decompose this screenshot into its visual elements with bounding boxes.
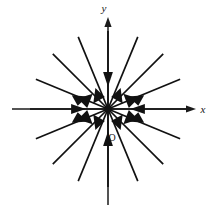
vector-field-diagram: y x O bbox=[0, 0, 215, 213]
origin-label: O bbox=[108, 132, 115, 143]
field-arrowhead-180deg bbox=[71, 104, 86, 114]
field-arrowhead-90deg bbox=[103, 72, 113, 87]
y-axis-label: y bbox=[101, 2, 107, 14]
origin-convergence-dot bbox=[104, 105, 111, 112]
x-axis-label: x bbox=[200, 103, 206, 115]
x-axis-arrowhead bbox=[186, 105, 196, 112]
figure-root: y x O bbox=[0, 0, 215, 213]
field-arrowhead-0deg bbox=[130, 104, 145, 114]
y-axis-arrowhead bbox=[104, 17, 111, 27]
